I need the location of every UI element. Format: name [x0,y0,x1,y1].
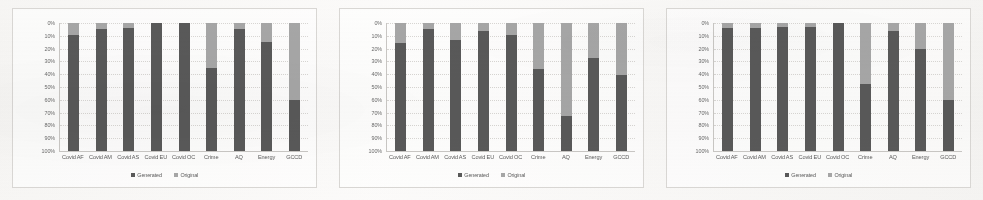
stacked-bar[interactable] [588,23,599,151]
bar-segment-generated[interactable] [777,27,788,151]
bar-column[interactable] [714,23,742,151]
bar-column[interactable] [525,23,553,151]
bar-segment-original[interactable] [289,23,300,100]
bar-column[interactable] [608,23,636,151]
bar-column[interactable] [552,23,580,151]
bar-segment-generated[interactable] [533,69,544,151]
stacked-bar[interactable] [722,23,733,151]
legend-item-original[interactable]: Original [501,172,525,178]
bar-segment-original[interactable] [506,23,517,35]
bar-segment-generated[interactable] [506,35,517,151]
bar-segment-original[interactable] [206,23,217,68]
stacked-bar[interactable] [616,23,627,151]
bar-column[interactable] [497,23,525,151]
bar-segment-original[interactable] [450,23,461,40]
stacked-bar[interactable] [261,23,272,151]
bar-column[interactable] [198,23,226,151]
stacked-bar[interactable] [395,23,406,151]
bar-segment-generated[interactable] [860,84,871,151]
stacked-bar[interactable] [206,23,217,151]
bar-column[interactable] [415,23,443,151]
bar-segment-generated[interactable] [68,35,79,151]
bar-segment-generated[interactable] [478,31,489,151]
bar-column[interactable] [879,23,907,151]
bar-segment-generated[interactable] [616,75,627,151]
legend-item-original[interactable]: Original [828,172,852,178]
bar-column[interactable] [281,23,309,151]
bar-segment-generated[interactable] [833,23,844,151]
bar-segment-original[interactable] [943,23,954,100]
bar-segment-generated[interactable] [805,27,816,151]
stacked-bar[interactable] [915,23,926,151]
stacked-bar[interactable] [423,23,434,151]
stacked-bar[interactable] [750,23,761,151]
bar-column[interactable] [115,23,143,151]
bar-segment-original[interactable] [860,23,871,84]
bar-column[interactable] [852,23,880,151]
stacked-bar[interactable] [561,23,572,151]
bar-segment-generated[interactable] [96,29,107,151]
bar-segment-original[interactable] [478,23,489,31]
bar-segment-original[interactable] [561,23,572,116]
bar-column[interactable] [797,23,825,151]
bar-column[interactable] [387,23,415,151]
bar-column[interactable] [170,23,198,151]
stacked-bar[interactable] [123,23,134,151]
bar-segment-original[interactable] [616,23,627,75]
bar-column[interactable] [769,23,797,151]
bar-column[interactable] [225,23,253,151]
bar-segment-original[interactable] [261,23,272,42]
stacked-bar[interactable] [888,23,899,151]
bar-segment-generated[interactable] [915,49,926,151]
bar-segment-original[interactable] [533,23,544,69]
stacked-bar[interactable] [450,23,461,151]
bar-segment-generated[interactable] [888,31,899,151]
bar-segment-generated[interactable] [289,100,300,151]
legend-item-original[interactable]: Original [174,172,198,178]
bar-segment-generated[interactable] [261,42,272,151]
bar-column[interactable] [470,23,498,151]
bar-segment-generated[interactable] [423,29,434,151]
bar-column[interactable] [580,23,608,151]
stacked-bar[interactable] [943,23,954,151]
bar-segment-generated[interactable] [943,100,954,151]
stacked-bar[interactable] [777,23,788,151]
stacked-bar[interactable] [533,23,544,151]
stacked-bar[interactable] [151,23,162,151]
bar-segment-generated[interactable] [750,28,761,151]
bar-segment-generated[interactable] [123,28,134,151]
bar-segment-generated[interactable] [395,43,406,151]
bar-segment-generated[interactable] [450,40,461,151]
bar-segment-generated[interactable] [151,23,162,151]
bar-column[interactable] [442,23,470,151]
bar-segment-generated[interactable] [588,58,599,151]
bar-segment-generated[interactable] [179,23,190,151]
stacked-bar[interactable] [289,23,300,151]
stacked-bar[interactable] [96,23,107,151]
bar-segment-original[interactable] [588,23,599,58]
legend-item-generated[interactable]: Generated [131,172,162,178]
bar-segment-original[interactable] [395,23,406,43]
bar-segment-generated[interactable] [722,28,733,151]
bar-column[interactable] [60,23,88,151]
stacked-bar[interactable] [68,23,79,151]
bar-column[interactable] [88,23,116,151]
stacked-bar[interactable] [805,23,816,151]
stacked-bar[interactable] [860,23,871,151]
stacked-bar[interactable] [833,23,844,151]
bar-column[interactable] [143,23,171,151]
legend-item-generated[interactable]: Generated [785,172,816,178]
stacked-bar[interactable] [478,23,489,151]
bar-column[interactable] [907,23,935,151]
bar-segment-generated[interactable] [561,116,572,151]
bar-column[interactable] [824,23,852,151]
bar-column[interactable] [253,23,281,151]
stacked-bar[interactable] [234,23,245,151]
bar-column[interactable] [935,23,963,151]
stacked-bar[interactable] [179,23,190,151]
legend-item-generated[interactable]: Generated [458,172,489,178]
stacked-bar[interactable] [506,23,517,151]
bar-column[interactable] [742,23,770,151]
bar-segment-original[interactable] [68,23,79,35]
bar-segment-generated[interactable] [234,29,245,151]
